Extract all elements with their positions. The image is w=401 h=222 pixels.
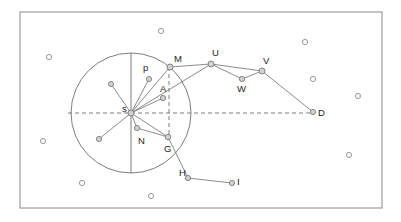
- node-label-N: N: [138, 135, 145, 146]
- edge-M-U: [170, 64, 211, 67]
- node-spoke-lower-left[interactable]: [96, 136, 101, 141]
- geometry-diagram: spMAUVWDNGHI: [0, 0, 401, 222]
- node-A[interactable]: [160, 95, 165, 100]
- frame-border: [20, 12, 382, 208]
- scatter-point: [355, 93, 360, 98]
- scatter-point: [148, 193, 153, 198]
- node-spoke-upper-left[interactable]: [108, 81, 113, 86]
- node-I[interactable]: [229, 180, 234, 185]
- scatter-point: [40, 138, 45, 143]
- node-label-G: G: [164, 143, 171, 154]
- node-H[interactable]: [185, 175, 190, 180]
- node-U[interactable]: [208, 61, 214, 67]
- edge-s-spoke-upper-left: [111, 84, 131, 113]
- edge-s-G: [131, 113, 168, 137]
- frame-border-group: [20, 12, 382, 208]
- node-label-W: W: [237, 83, 246, 94]
- edge-s-A: [131, 98, 163, 113]
- node-label-V: V: [263, 55, 270, 66]
- edge-V-D: [262, 71, 313, 112]
- scatter-point: [158, 28, 163, 33]
- scatter-point: [46, 54, 51, 59]
- node-label-s: s: [122, 103, 127, 114]
- edge-s-spoke-lower-left: [99, 113, 131, 139]
- node-label-A: A: [160, 83, 167, 94]
- scatter-point: [346, 152, 351, 157]
- scatter-point: [302, 39, 307, 44]
- scatter-point: [79, 180, 84, 185]
- node-V[interactable]: [259, 68, 265, 74]
- node-G[interactable]: [165, 134, 171, 140]
- node-label-D: D: [318, 107, 325, 118]
- node-label-M: M: [174, 53, 182, 64]
- axes-layer: [68, 53, 312, 173]
- node-D[interactable]: [310, 109, 315, 114]
- scatter-point: [310, 76, 315, 81]
- node-s[interactable]: [128, 110, 134, 116]
- node-label-U: U: [212, 47, 219, 58]
- node-label-I: I: [237, 176, 240, 187]
- edge-H-I: [188, 178, 232, 183]
- diagram-canvas: spMAUVWDNGHI: [0, 0, 401, 222]
- node-label-H: H: [179, 167, 186, 178]
- node-label-p: p: [143, 62, 148, 73]
- node-layer: [96, 61, 315, 186]
- node-M[interactable]: [167, 64, 173, 70]
- node-W[interactable]: [239, 76, 244, 81]
- node-N[interactable]: [134, 125, 139, 130]
- node-label-layer: spMAUVWDNGHI: [122, 47, 325, 187]
- node-p[interactable]: [146, 76, 151, 81]
